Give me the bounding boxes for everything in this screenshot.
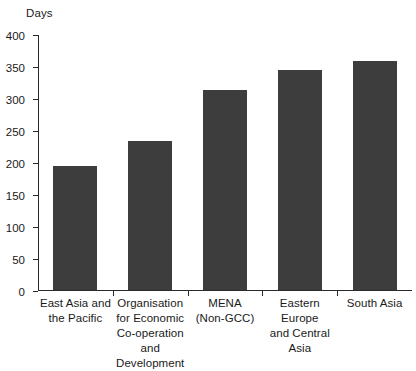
x-axis-line (38, 290, 412, 291)
category-label-line: MENA (188, 296, 263, 311)
y-axis-tick-label: 0 (19, 286, 25, 298)
bar (128, 141, 172, 290)
y-axis-tick: 100 (33, 227, 38, 228)
category-label-line: and Central Asia (262, 326, 337, 356)
bar (53, 166, 97, 290)
category-label-line: East Asia and (38, 296, 113, 311)
y-axis-tick: 50 (33, 259, 38, 260)
category-label-line: and Development (113, 341, 188, 371)
y-axis-tick-label: 50 (12, 254, 25, 266)
bar (353, 61, 397, 290)
bar (203, 90, 247, 290)
y-axis-tick: 0 (33, 291, 38, 292)
y-axis-tick: 200 (33, 163, 38, 164)
y-axis-tick: 250 (33, 131, 38, 132)
y-axis-tick-label: 300 (6, 94, 25, 106)
bar (278, 70, 322, 290)
x-axis-category-label: Eastern Europeand Central Asia (262, 296, 337, 356)
y-axis-tick: 350 (33, 67, 38, 68)
x-axis-category-label: Organisationfor EconomicCo-operationand … (113, 296, 188, 371)
category-label-line: Organisation (113, 296, 188, 311)
y-axis-tick-label: 150 (6, 190, 25, 202)
y-axis-tick: 400 (33, 35, 38, 36)
x-axis-category-labels: East Asia andthe PacificOrganisationfor … (38, 296, 412, 362)
x-axis-category-label: East Asia andthe Pacific (38, 296, 113, 326)
x-axis-category-label: MENA(Non-GCC) (188, 296, 263, 326)
plot-area: 050100150200250300350400 (38, 35, 412, 291)
y-axis-title: Days (26, 6, 53, 20)
y-axis-line (38, 35, 39, 291)
category-label-line: (Non-GCC) (188, 311, 263, 326)
y-axis-tick: 300 (33, 99, 38, 100)
y-axis-tick-label: 250 (6, 126, 25, 138)
y-axis-tick-label: 200 (6, 158, 25, 170)
category-label-line: for Economic (113, 311, 188, 326)
y-axis-tick-label: 100 (6, 222, 25, 234)
y-axis-tick: 150 (33, 195, 38, 196)
y-axis-tick-label: 350 (6, 62, 25, 74)
y-axis-tick-label: 400 (6, 30, 25, 42)
category-label-line: Eastern Europe (262, 296, 337, 326)
category-label-line: Co-operation (113, 326, 188, 341)
category-label-line: South Asia (337, 296, 412, 311)
category-label-line: the Pacific (38, 311, 113, 326)
x-axis-category-label: South Asia (337, 296, 412, 311)
